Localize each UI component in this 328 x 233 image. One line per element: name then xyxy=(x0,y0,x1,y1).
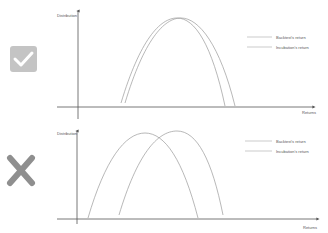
x-icon xyxy=(10,158,32,183)
x-axis-label: Returns xyxy=(302,110,316,115)
chart-canvas: Distribution Returns Backtest's return I… xyxy=(0,0,328,233)
y-axis-label: Distribution xyxy=(57,131,77,136)
legend: Backtest's return Incubation's return xyxy=(247,35,309,50)
legend-incubation: Incubation's return xyxy=(276,45,309,50)
curve-backtest xyxy=(88,133,198,218)
curve-incubation xyxy=(125,18,235,106)
top-panel: Distribution Returns Backtest's return I… xyxy=(10,11,316,119)
x-axis-label: Returns xyxy=(303,225,317,230)
legend: Backtest's return Incubation's return xyxy=(245,139,309,154)
curve-backtest xyxy=(121,18,225,106)
legend-backtest: Backtest's return xyxy=(276,139,306,144)
y-axis-label: Distribution xyxy=(57,13,77,18)
legend-backtest: Backtest's return xyxy=(276,35,306,40)
check-icon xyxy=(10,46,37,72)
legend-incubation: Incubation's return xyxy=(276,149,309,154)
bottom-panel: Distribution Returns Backtest's return I… xyxy=(10,131,318,230)
curve-incubation xyxy=(119,131,223,215)
